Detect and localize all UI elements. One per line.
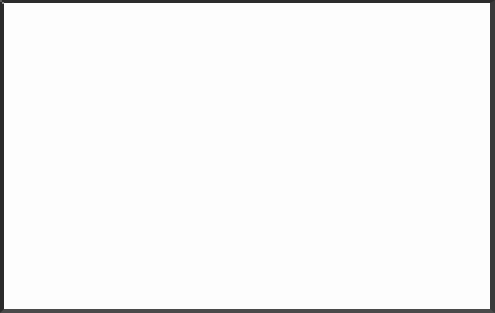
chart-canvas — [0, 0, 495, 313]
chart-legend — [0, 0, 2, 2]
area-chart-svg — [0, 0, 495, 313]
